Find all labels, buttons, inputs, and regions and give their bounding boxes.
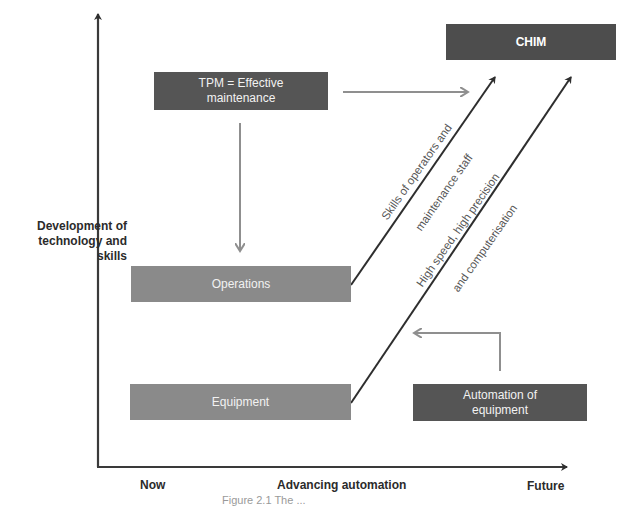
y-axis-label-line2: technology and (0, 234, 127, 249)
y-axis-label: Development of technology and skills (0, 219, 127, 264)
operations-box: Operations (131, 266, 351, 302)
arrow-automation-elbow (415, 333, 500, 371)
equipment-label: Equipment (212, 395, 269, 410)
chim-label: CHIM (516, 35, 547, 50)
operations-label: Operations (212, 277, 271, 292)
equipment-box: Equipment (130, 384, 351, 420)
tpm-box: TPM = Effective maintenance (154, 72, 328, 110)
figure-caption: Figure 2.1 The ... (222, 494, 306, 506)
x-axis-start-label: Now (140, 478, 165, 493)
automation-box: Automation of equipment (413, 384, 587, 421)
x-axis-end-label: Future (527, 479, 564, 494)
automation-label-line2: equipment (472, 403, 528, 418)
tpm-label-line2: maintenance (207, 91, 276, 106)
chim-box: CHIM (446, 24, 616, 60)
automation-label-line1: Automation of (463, 388, 537, 403)
tpm-label-line1: TPM = Effective (199, 76, 284, 91)
y-axis-label-line3: skills (0, 249, 127, 264)
x-axis-label: Advancing automation (277, 478, 406, 493)
y-axis-label-line1: Development of (0, 219, 127, 234)
